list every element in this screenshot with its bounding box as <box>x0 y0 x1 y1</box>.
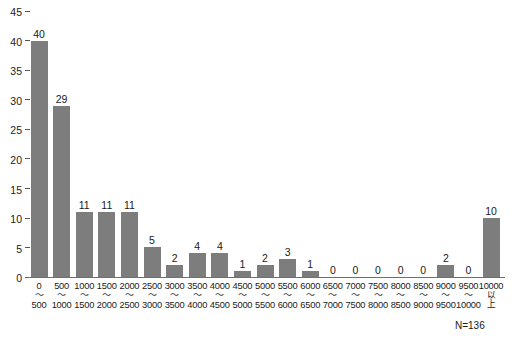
bar[interactable] <box>211 253 228 277</box>
bar-value-label: 2 <box>437 253 454 264</box>
bar[interactable] <box>234 271 251 277</box>
y-axis-tick-label: 15 <box>10 184 22 196</box>
bar[interactable] <box>483 218 500 277</box>
bar-column[interactable]: 5 <box>144 247 161 277</box>
bar[interactable] <box>189 253 206 277</box>
bar-column[interactable]: 29 <box>53 106 70 277</box>
bar[interactable] <box>98 212 115 277</box>
y-axis-tick-label: 45 <box>10 6 22 18</box>
bar-value-label: 0 <box>347 265 364 276</box>
bar-column[interactable]: 0 <box>324 276 341 277</box>
bar-value-label: 1 <box>234 259 251 270</box>
y-axis-tick: 25 <box>10 123 30 135</box>
bar[interactable] <box>279 259 296 277</box>
bar-column[interactable]: 0 <box>370 276 387 277</box>
bar-value-label: 3 <box>279 247 296 258</box>
bar-value-label: 11 <box>121 200 138 211</box>
x-axis-category-label: 10000以上 <box>474 281 508 309</box>
bar[interactable] <box>257 265 274 277</box>
bar[interactable] <box>121 212 138 277</box>
bar-value-label: 2 <box>166 253 183 264</box>
bar-column[interactable]: 0 <box>347 276 364 277</box>
y-axis-tick: 10 <box>10 212 30 224</box>
bar-column[interactable]: 10 <box>483 218 500 277</box>
bar-column[interactable]: 2 <box>257 265 274 277</box>
bar[interactable] <box>437 265 454 277</box>
x-axis-baseline <box>27 277 505 278</box>
y-axis-tick: 40 <box>10 35 30 47</box>
bar[interactable] <box>76 212 93 277</box>
bar-value-label: 10 <box>483 206 500 217</box>
bar-value-label: 4 <box>211 241 228 252</box>
bar[interactable] <box>31 41 48 277</box>
bar-value-label: 40 <box>31 29 48 40</box>
sample-size-annotation: N=136 <box>455 320 485 331</box>
bar-column[interactable]: 11 <box>98 212 115 277</box>
bar-column[interactable]: 1 <box>234 271 251 277</box>
bar[interactable] <box>53 106 70 277</box>
bar-value-label: 4 <box>189 241 206 252</box>
bar-chart: 051015202530354045 402911111152441231000… <box>0 0 525 339</box>
bar-value-label: 0 <box>324 265 341 276</box>
bar-value-label: 11 <box>76 200 93 211</box>
bar-column[interactable]: 4 <box>211 253 228 277</box>
bar-value-label: 0 <box>460 265 477 276</box>
y-axis-tick-label: 40 <box>10 36 22 48</box>
y-axis-tick-label: 10 <box>10 213 22 225</box>
bar[interactable] <box>166 265 183 277</box>
bar-column[interactable]: 3 <box>279 259 296 277</box>
bar-column[interactable]: 11 <box>121 212 138 277</box>
y-axis-tick: 35 <box>10 64 30 76</box>
y-axis-tick: 30 <box>10 94 30 106</box>
bar-column[interactable]: 1 <box>302 271 319 277</box>
y-axis-tick: 45 <box>10 5 30 17</box>
y-axis-tick: 5 <box>16 241 30 253</box>
bar-column[interactable]: 2 <box>437 265 454 277</box>
category-lower-bound: 上 <box>474 300 508 309</box>
bar-column[interactable]: 0 <box>460 276 477 277</box>
y-axis-tick: 20 <box>10 153 30 165</box>
bar-value-label: 0 <box>392 265 409 276</box>
bar[interactable] <box>302 271 319 277</box>
bar-column[interactable]: 4 <box>189 253 206 277</box>
bar-column[interactable]: 2 <box>166 265 183 277</box>
y-axis-tick-label: 20 <box>10 154 22 166</box>
bar-column[interactable]: 11 <box>76 212 93 277</box>
bar-column[interactable]: 0 <box>415 276 432 277</box>
bar[interactable] <box>144 247 161 277</box>
bar-value-label: 2 <box>257 253 274 264</box>
y-axis-tick-label: 35 <box>10 65 22 77</box>
y-axis-tick-label: 25 <box>10 124 22 136</box>
y-axis-tick: 15 <box>10 182 30 194</box>
bar-value-label: 11 <box>98 200 115 211</box>
bar-column[interactable]: 0 <box>392 276 409 277</box>
bar-value-label: 29 <box>53 94 70 105</box>
y-axis-tick-label: 30 <box>10 95 22 107</box>
bar-value-label: 0 <box>415 265 432 276</box>
bar-value-label: 0 <box>370 265 387 276</box>
bar-value-label: 1 <box>302 259 319 270</box>
y-axis-tick-label: 5 <box>16 243 22 255</box>
bar-column[interactable]: 40 <box>31 41 48 277</box>
bar-value-label: 5 <box>144 235 161 246</box>
